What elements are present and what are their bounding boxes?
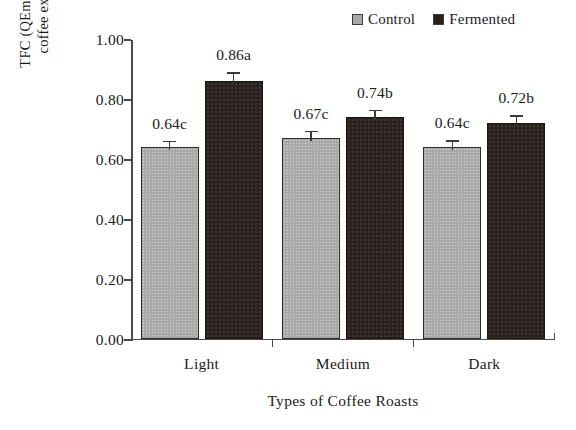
bar-light-fermented[interactable] [205,81,263,339]
error-bar-cap [510,115,523,117]
data-label-dark-control: 0.64c [435,114,470,132]
y-axis-tick-label: 0.40 [96,211,124,229]
y-axis-tick [124,279,131,281]
y-axis-title-line-2: coffee extract) [34,0,52,100]
y-axis-tick [124,159,131,161]
y-axis-title: TFC (QEmg/mL of coffee extract) [16,0,52,100]
data-label-medium-control: 0.67c [293,105,328,123]
y-axis-tick-label: 0.00 [96,331,124,349]
y-axis-tick [124,39,131,41]
y-axis-tick-label: 0.80 [96,91,124,109]
data-label-light-control: 0.64c [152,115,187,133]
data-label-medium-fermented: 0.74b [357,84,393,102]
x-axis-title: Types of Coffee Roasts [131,392,555,410]
legend-entry-fermented: Fermented [433,12,515,27]
x-axis-group-separator [272,340,274,347]
chart-legend: Control Fermented [352,12,515,27]
plot-area: 0.000.200.400.600.801.000.64c0.86aLight0… [131,40,555,340]
x-axis-category-label-medium: Medium [316,355,370,373]
bar-medium-fermented[interactable] [346,117,404,339]
error-bar [310,131,312,141]
y-axis-tick [124,339,131,341]
error-bar-cap [446,140,459,142]
data-label-light-fermented: 0.86a [216,46,251,64]
y-axis-line [131,40,133,341]
legend-swatch-fermented-icon [433,14,444,25]
chart-figure: Control Fermented TFC (QEmg/mL of coffee… [0,0,576,430]
legend-swatch-control-icon [352,14,363,25]
y-axis-tick [124,99,131,101]
x-axis-endcap-right [554,333,556,340]
legend-label-fermented: Fermented [449,12,515,27]
error-bar [233,72,235,84]
y-axis-tick-label: 0.60 [96,151,124,169]
y-axis-tick-label: 1.00 [96,31,124,49]
error-bar [516,115,518,126]
x-axis-group-separator [413,340,415,347]
bar-medium-control[interactable] [282,138,340,339]
error-bar-cap [369,110,382,112]
legend-label-control: Control [368,12,415,27]
y-axis-tick [124,219,131,221]
y-axis-title-line-1: TFC (QEmg/mL of [16,0,34,100]
error-bar [374,110,376,120]
bar-dark-fermented[interactable] [487,123,545,339]
x-axis-category-label-dark: Dark [468,355,500,373]
error-bar-cap [227,72,240,74]
error-bar-cap [163,141,176,143]
x-axis-category-label-light: Light [184,355,219,373]
y-axis-tick-label: 0.20 [96,271,124,289]
x-axis-endcap-left [131,333,133,340]
error-bar-cap [305,131,318,133]
data-label-dark-fermented: 0.72b [498,89,534,107]
legend-entry-control: Control [352,12,415,27]
bar-light-control[interactable] [141,147,199,339]
bar-dark-control[interactable] [423,147,481,339]
